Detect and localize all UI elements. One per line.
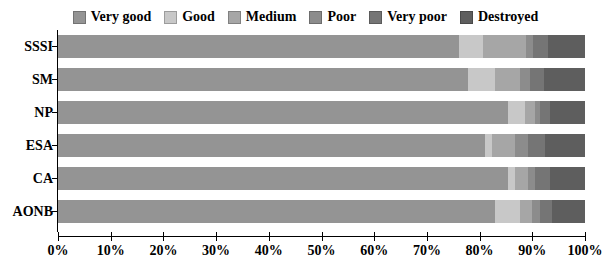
bar-row-sm: SM bbox=[0, 63, 611, 96]
stacked-bar[interactable] bbox=[58, 35, 585, 58]
legend-item-label: Very poor bbox=[387, 10, 447, 24]
legend-item-very-poor[interactable]: Very poor bbox=[369, 10, 447, 24]
bar-segment-very-good[interactable] bbox=[58, 68, 468, 91]
x-axis-tick bbox=[322, 232, 323, 241]
bar-segment-very-good[interactable] bbox=[58, 167, 508, 190]
y-axis-label-aonb: AONB bbox=[0, 195, 53, 228]
bar-segment-good[interactable] bbox=[508, 167, 515, 190]
legend-item-poor[interactable]: Poor bbox=[309, 10, 356, 24]
x-axis-tick bbox=[585, 232, 586, 241]
bar-segment-good[interactable] bbox=[459, 35, 483, 58]
bar-segment-good[interactable] bbox=[508, 101, 525, 124]
bar-segment-very-good[interactable] bbox=[58, 134, 485, 157]
legend-swatch-icon bbox=[164, 11, 177, 24]
bar-segment-destroyed[interactable] bbox=[550, 101, 585, 124]
y-axis-label-esa: ESA bbox=[0, 129, 53, 162]
x-axis-tick-label: 70% bbox=[413, 243, 441, 259]
bar-segment-poor[interactable] bbox=[520, 68, 530, 91]
legend-item-label: Destroyed bbox=[478, 10, 538, 24]
bar-segment-poor[interactable] bbox=[528, 167, 535, 190]
bar-segment-very-good[interactable] bbox=[58, 35, 459, 58]
x-axis-tick bbox=[58, 232, 59, 241]
legend-item-label: Medium bbox=[246, 10, 297, 24]
legend-item-medium[interactable]: Medium bbox=[228, 10, 297, 24]
legend-item-label: Good bbox=[182, 10, 215, 24]
bar-segment-very-poor[interactable] bbox=[528, 134, 545, 157]
x-axis-tick bbox=[111, 232, 112, 241]
bar-segment-very-poor[interactable] bbox=[535, 167, 550, 190]
legend-item-good[interactable]: Good bbox=[164, 10, 215, 24]
stacked-bar[interactable] bbox=[58, 101, 585, 124]
bar-segment-medium[interactable] bbox=[492, 134, 515, 157]
y-axis-label-np: NP bbox=[0, 96, 53, 129]
stacked-bar[interactable] bbox=[58, 167, 585, 190]
legend-swatch-icon bbox=[369, 11, 382, 24]
x-axis-tick-label: 50% bbox=[308, 243, 336, 259]
x-axis-tick bbox=[532, 232, 533, 241]
bar-segment-very-good[interactable] bbox=[58, 101, 508, 124]
stacked-bar[interactable] bbox=[58, 200, 585, 223]
bar-segment-destroyed[interactable] bbox=[544, 68, 585, 91]
stacked-bar-chart: Very goodGoodMediumPoorVery poorDestroye… bbox=[0, 0, 611, 263]
bar-segment-destroyed[interactable] bbox=[548, 35, 585, 58]
y-axis-label-ca: CA bbox=[0, 162, 53, 195]
bar-segment-medium[interactable] bbox=[515, 167, 528, 190]
bar-segment-very-poor[interactable] bbox=[540, 200, 552, 223]
legend-item-very-good[interactable]: Very good bbox=[73, 10, 152, 24]
stacked-bar[interactable] bbox=[58, 68, 585, 91]
bar-segment-good[interactable] bbox=[495, 200, 520, 223]
bar-segment-good[interactable] bbox=[485, 134, 492, 157]
x-axis-tick bbox=[427, 232, 428, 241]
bar-row-sssi: SSSI bbox=[0, 30, 611, 63]
y-axis-tick bbox=[52, 79, 57, 80]
x-axis-tick bbox=[480, 232, 481, 241]
legend-swatch-icon bbox=[228, 11, 241, 24]
y-axis-label-sm: SM bbox=[0, 63, 53, 96]
x-axis-tick-label: 100% bbox=[568, 243, 603, 259]
bar-row-aonb: AONB bbox=[0, 195, 611, 228]
bar-row-ca: CA bbox=[0, 162, 611, 195]
bar-segment-medium[interactable] bbox=[520, 200, 532, 223]
stacked-bar[interactable] bbox=[58, 134, 585, 157]
bar-segment-poor[interactable] bbox=[526, 35, 533, 58]
bar-segment-poor[interactable] bbox=[532, 200, 540, 223]
bar-segment-poor[interactable] bbox=[515, 134, 528, 157]
x-axis-tick-label: 90% bbox=[518, 243, 546, 259]
bar-segment-good[interactable] bbox=[468, 68, 495, 91]
bar-segment-destroyed[interactable] bbox=[550, 167, 585, 190]
y-axis-label-sssi: SSSI bbox=[0, 30, 53, 63]
x-axis-tick-label: 40% bbox=[255, 243, 283, 259]
y-axis-tick bbox=[52, 145, 57, 146]
y-axis-tick bbox=[52, 178, 57, 179]
bar-row-esa: ESA bbox=[0, 129, 611, 162]
x-axis-tick-label: 60% bbox=[360, 243, 388, 259]
bar-segment-very-good[interactable] bbox=[58, 200, 495, 223]
x-axis: 0%10%20%30%40%50%60%70%80%90%100% bbox=[0, 236, 611, 263]
legend-swatch-icon bbox=[309, 11, 322, 24]
bar-segment-medium[interactable] bbox=[525, 101, 535, 124]
x-axis-tick bbox=[269, 232, 270, 241]
x-axis-tick bbox=[163, 232, 164, 241]
chart-legend: Very goodGoodMediumPoorVery poorDestroye… bbox=[0, 6, 611, 28]
x-axis-tick-label: 30% bbox=[202, 243, 230, 259]
x-axis-tick-label: 0% bbox=[48, 243, 69, 259]
bar-segment-very-poor[interactable] bbox=[540, 101, 550, 124]
bar-segment-very-poor[interactable] bbox=[530, 68, 545, 91]
x-axis-tick-label: 20% bbox=[149, 243, 177, 259]
bar-row-np: NP bbox=[0, 96, 611, 129]
y-axis-tick bbox=[52, 211, 57, 212]
bar-segment-destroyed[interactable] bbox=[545, 134, 585, 157]
x-axis-tick-label: 80% bbox=[466, 243, 494, 259]
legend-item-label: Very good bbox=[91, 10, 152, 24]
legend-swatch-icon bbox=[73, 11, 86, 24]
bar-segment-medium[interactable] bbox=[483, 35, 527, 58]
legend-item-label: Poor bbox=[327, 10, 356, 24]
y-axis-tick bbox=[52, 112, 57, 113]
bar-segment-very-poor[interactable] bbox=[533, 35, 547, 58]
x-axis-tick-label: 10% bbox=[97, 243, 125, 259]
bar-segment-destroyed[interactable] bbox=[552, 200, 585, 223]
bar-segment-medium[interactable] bbox=[495, 68, 520, 91]
plot-area: SSSISMNPESACAAONB bbox=[0, 28, 611, 233]
legend-item-destroyed[interactable]: Destroyed bbox=[460, 10, 538, 24]
y-axis-tick bbox=[52, 46, 57, 47]
